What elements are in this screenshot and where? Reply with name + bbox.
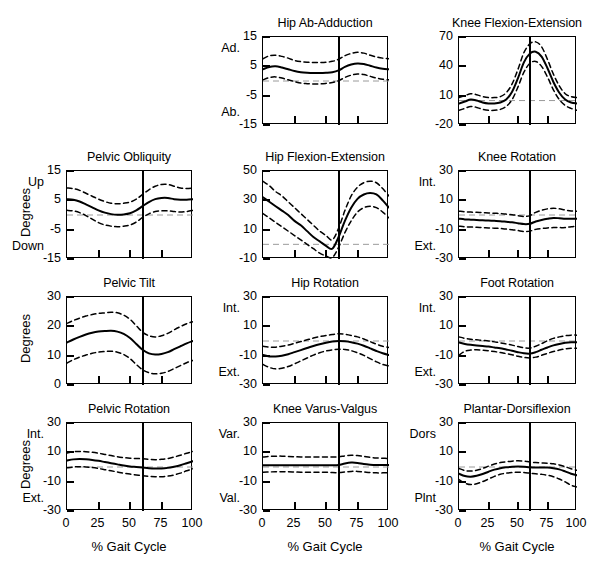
y-axis-direction-label: Dors (410, 427, 436, 441)
x-tick (488, 502, 490, 509)
chart-title-plantar-dorsiflexion: Plantar-Dorsiflexion (428, 402, 591, 416)
x-tick (547, 502, 549, 509)
x-tick-label: 75 (540, 516, 554, 530)
y-tick-label: 30 (439, 415, 453, 429)
series--1-sd (459, 472, 577, 487)
y-tick-label: -10 (435, 474, 453, 488)
x-tick-label: 50 (510, 516, 524, 530)
y-tick (459, 510, 466, 512)
x-axis-title: % Gait Cycle (479, 539, 554, 554)
y-tick (459, 451, 466, 453)
y-tick-label: 10 (439, 444, 453, 458)
toe-off-line (529, 423, 531, 511)
x-tick (517, 502, 519, 509)
curves-plantar-dorsiflexion (459, 423, 577, 511)
x-tick-label: 0 (455, 516, 462, 530)
y-tick (459, 481, 466, 483)
y-tick (459, 422, 466, 424)
plot-area-plantar-dorsiflexion (458, 422, 576, 510)
y-axis-direction-label: Plnt (414, 491, 436, 505)
x-tick-label: 100 (566, 516, 587, 530)
y-tick-label: -30 (435, 503, 453, 517)
x-tick-label: 25 (481, 516, 495, 530)
